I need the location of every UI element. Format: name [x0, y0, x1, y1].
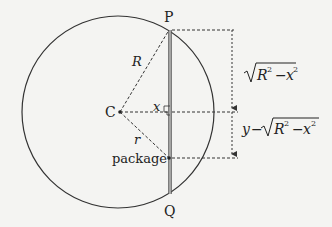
radius-R-line — [120, 30, 169, 112]
diagram-svg: P Q C R r x package R 2 − x 2 y − R 2 − … — [0, 0, 332, 227]
svg-text:2: 2 — [284, 119, 289, 128]
label-C: C — [105, 104, 116, 120]
svg-text:2: 2 — [267, 65, 272, 74]
svg-text:−: − — [251, 121, 263, 137]
label-R: R — [131, 54, 142, 69]
sqrt-expression: R 2 − x 2 — [244, 63, 298, 83]
label-x: x — [153, 99, 161, 114]
circle-outline — [22, 16, 214, 208]
svg-text:−: − — [292, 121, 304, 137]
label-r: r — [134, 132, 141, 147]
svg-text:x: x — [303, 121, 311, 137]
y-minus-sqrt-expression: y − R 2 − x 2 — [241, 118, 319, 137]
label-Q: Q — [164, 203, 175, 219]
center-dot — [118, 110, 122, 114]
svg-text:−: − — [275, 67, 287, 83]
svg-text:y: y — [241, 121, 251, 137]
label-package: package — [112, 151, 167, 166]
package-dot — [167, 156, 171, 160]
svg-text:2: 2 — [311, 119, 316, 128]
diagram-canvas: P Q C R r x package R 2 − x 2 y − R 2 − … — [0, 0, 332, 227]
label-P: P — [164, 9, 173, 25]
svg-text:2: 2 — [293, 65, 298, 74]
